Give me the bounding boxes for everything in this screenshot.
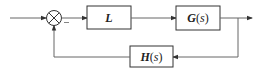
block-H: H(s) — [130, 46, 173, 67]
block-G-label: G(s) — [187, 11, 208, 25]
block-G: G(s) — [176, 6, 220, 30]
block-H-label: H(s) — [139, 50, 162, 64]
block-L-label: L — [104, 11, 112, 25]
block-diagram: L G(s) H(s) — [0, 0, 264, 73]
summing-junction — [47, 11, 62, 26]
block-L: L — [87, 6, 131, 29]
feedback-return-line — [54, 26, 130, 58]
